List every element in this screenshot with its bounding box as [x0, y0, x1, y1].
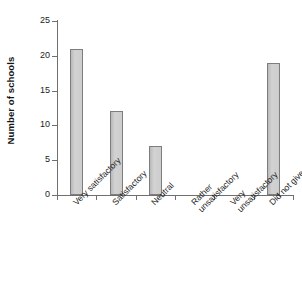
y-axis-tick: [52, 56, 57, 57]
bar-chart-figure: Number of schools 0510152025 Very satisf…: [0, 0, 302, 283]
y-axis-tick-label: 25: [40, 15, 50, 26]
y-axis-title-label: Number of schools: [6, 56, 17, 144]
x-axis-labels: Very satisfactorySatisfactoryNeutralRath…: [57, 200, 302, 283]
y-axis-tick: [52, 91, 57, 92]
bar: [110, 111, 123, 195]
y-axis-tick-label: 0: [45, 189, 50, 200]
bar: [70, 49, 83, 195]
y-axis-tick-label: 10: [40, 119, 50, 130]
y-axis-tick: [52, 125, 57, 126]
y-axis-tick-label: 5: [45, 154, 50, 165]
y-axis-tick-label: 15: [40, 85, 50, 96]
y-axis-title: Number of schools: [0, 0, 22, 200]
y-axis-tick: [52, 21, 57, 22]
y-axis-tick-label: 20: [40, 50, 50, 61]
y-axis-tick: [52, 160, 57, 161]
